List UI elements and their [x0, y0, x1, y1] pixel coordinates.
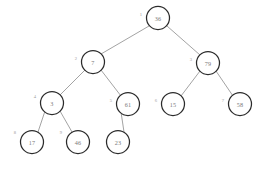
tree-node[interactable]: 793	[190, 52, 220, 75]
tree-edge	[181, 71, 200, 96]
tree-edge	[60, 70, 85, 95]
tree-node[interactable]: 361	[140, 7, 170, 30]
tree-diagram-canvas: 361727933461515658717846923	[0, 0, 273, 176]
edges-layer	[38, 26, 233, 132]
tree-node[interactable]: 587	[222, 93, 252, 116]
tree-node[interactable]: 156	[155, 93, 185, 116]
tree-edge	[216, 71, 233, 96]
tree-node[interactable]: 34	[34, 92, 64, 115]
tree-node-value: 15	[170, 101, 177, 108]
tree-edge	[38, 111, 45, 132]
tree-node-value: 36	[155, 15, 162, 22]
tree-node-index-label: 8	[14, 130, 17, 135]
tree-node-index-label: 1	[140, 12, 143, 17]
tree-node-index-label: 7	[222, 98, 225, 103]
tree-edge	[101, 26, 149, 54]
tree-svg: 361727933461515658717846923	[0, 0, 273, 176]
tree-node[interactable]: 615	[110, 93, 140, 116]
tree-node-index-label: 3	[190, 57, 193, 62]
tree-node[interactable]: 178	[14, 130, 44, 154]
tree-node-value: 61	[125, 101, 132, 108]
tree-node[interactable]: 23	[107, 131, 130, 154]
tree-node-index-label: 6	[155, 98, 158, 103]
tree-node[interactable]: 72	[75, 51, 105, 74]
tree-node-value: 79	[205, 60, 212, 67]
tree-node-index-label: 4	[34, 94, 37, 99]
tree-node-value: 46	[75, 139, 82, 146]
tree-node-value: 23	[115, 139, 122, 146]
tree-node-value: 17	[29, 139, 36, 146]
tree-node-index-label: 2	[75, 56, 78, 61]
tree-node[interactable]: 469	[60, 130, 90, 154]
tree-node-index-label: 9	[60, 130, 63, 135]
tree-node-value: 58	[237, 101, 244, 108]
tree-edge	[101, 70, 121, 96]
tree-node-index-label: 5	[110, 98, 113, 103]
tree-node-value: 3	[50, 100, 53, 107]
tree-node-value: 7	[91, 59, 94, 66]
tree-edge	[167, 26, 200, 55]
nodes-layer: 361727933461515658717846923	[14, 7, 252, 154]
